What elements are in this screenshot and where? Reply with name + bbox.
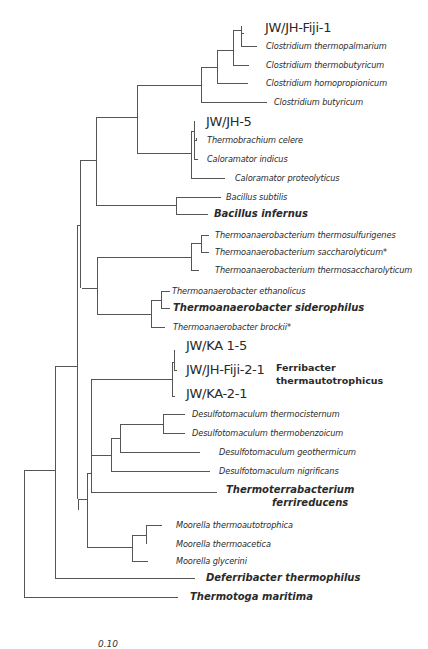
taxon-label: Thermoanaerobacterium saccharolyticum* xyxy=(215,248,387,256)
taxon-label: Clostridium butyricum xyxy=(274,98,363,106)
taxon-label: Desulfotomaculum thermocisternum xyxy=(192,410,340,418)
scale-bar-label: 0.10 xyxy=(98,640,118,649)
branch xyxy=(55,366,195,578)
clade-bacillus xyxy=(80,117,221,214)
taxon-label: Thermobrachium celere xyxy=(207,136,303,144)
taxon-label: Clostridium thermobutyricum xyxy=(266,61,384,69)
taxon-label-highlighted: thermautotrophicus xyxy=(276,376,383,386)
clade-thermoanaerobacterium xyxy=(97,235,209,270)
taxon-label-highlighted: Bacillus infernus xyxy=(214,209,308,219)
branch xyxy=(191,243,199,270)
branch xyxy=(201,67,267,102)
taxon-label: JW/JH-5 xyxy=(206,115,252,128)
taxon-label-highlighted: ferrireducens xyxy=(272,498,348,508)
taxon-label-highlighted: Thermotoga maritima xyxy=(190,592,313,602)
taxon-label: Bacillus subtilis xyxy=(226,193,287,201)
taxon-label: Moorella thermoacetica xyxy=(176,540,271,548)
taxon-label: Desulfotomaculum geothermicum xyxy=(219,448,356,456)
branch xyxy=(161,291,170,308)
clade-clostridium xyxy=(137,26,267,102)
taxon-label: Desulfotomaculum nigrificans xyxy=(219,467,339,475)
taxon-label: Moorella thermoautotrophica xyxy=(176,521,293,529)
taxon-label: JW/KA-2-1 xyxy=(186,387,247,400)
branch xyxy=(194,140,198,159)
taxon-label: JW/JH-Fiji-2-1 xyxy=(186,363,264,376)
clade-caloramator xyxy=(96,85,225,178)
branch xyxy=(174,362,177,370)
branch xyxy=(241,29,257,46)
taxon-label: Clostridium thermopalmarium xyxy=(266,42,387,50)
branch xyxy=(201,235,209,252)
taxon-label: Caloramator indicus xyxy=(207,155,288,163)
branch xyxy=(111,438,210,471)
branch xyxy=(151,300,165,327)
clade-thermoanaerobacter xyxy=(82,257,170,327)
branch xyxy=(163,414,185,433)
taxon-label: Thermoanaerobacter brockii* xyxy=(173,323,291,331)
taxon-label: Desulfotomaculum thermobenzoicum xyxy=(192,429,343,437)
taxon-label-highlighted: Ferribacter xyxy=(276,363,336,373)
taxon-label-highlighted: Thermoterrabacterium xyxy=(226,485,354,495)
clade-ferribacter xyxy=(91,350,177,396)
branch xyxy=(120,424,200,452)
clade-moorella xyxy=(87,473,162,561)
taxon-label: JW/JH-Fiji-1 xyxy=(265,21,331,34)
taxon-label: Moorella glycerini xyxy=(176,557,247,565)
taxon-label: Thermoanaerobacter ethanolicus xyxy=(172,287,305,295)
taxon-label: Clostridium homopropionicum xyxy=(266,79,387,87)
branch xyxy=(91,455,217,492)
taxon-label: Thermoanaerobacterium thermosaccharolyti… xyxy=(215,266,412,274)
taxon-label: Caloramator proteolyticus xyxy=(235,174,339,182)
taxon-label-highlighted: Deferribacter thermophilus xyxy=(206,573,360,583)
taxon-label-highlighted: Thermoanaerobacter siderophilus xyxy=(173,303,364,313)
branch xyxy=(176,197,208,214)
taxon-label: JW/KA 1-5 xyxy=(186,339,247,352)
taxon-label: Thermoanaerobacterium thermosulfurigenes xyxy=(215,231,396,239)
